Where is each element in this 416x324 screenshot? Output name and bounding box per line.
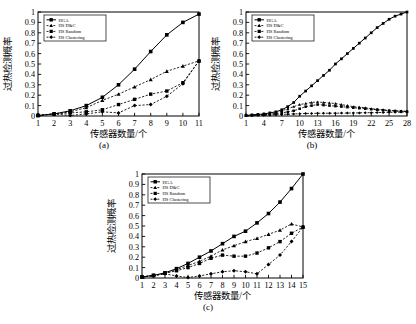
y-tick-label: 0.9 (129, 180, 139, 189)
data-point-marker (149, 50, 153, 54)
data-point-marker (382, 22, 385, 25)
x-tick-label: 15 (299, 281, 307, 290)
y-tick-label: 0.1 (25, 102, 35, 111)
data-point-marker (370, 31, 373, 34)
data-point-marker (352, 111, 355, 114)
data-point-marker (376, 108, 379, 111)
y-axis-label: 过热检测概率 (2, 37, 13, 91)
x-tick-label: 11 (253, 281, 261, 290)
series-line (38, 61, 199, 116)
subplot-caption: (b) (208, 140, 416, 150)
data-point-marker (328, 104, 331, 107)
data-point-marker (304, 90, 307, 93)
data-point-marker (267, 232, 271, 236)
data-point-marker (197, 12, 201, 16)
y-axis-label: 过热检测概率 (210, 37, 221, 91)
data-point-marker (310, 104, 313, 107)
data-point-marker (298, 107, 301, 110)
y-tick-label: 0.4 (233, 70, 243, 79)
x-tick-label: 25 (385, 119, 393, 128)
series-hs-random (36, 59, 200, 117)
data-point-marker (328, 112, 331, 115)
data-point-marker (257, 18, 260, 21)
legend-label: HGA (59, 18, 70, 23)
x-tick-label: 28 (403, 119, 411, 128)
x-tick-label: 4 (174, 281, 178, 290)
data-point-marker (244, 229, 248, 233)
data-point-marker (181, 64, 185, 68)
data-point-marker (322, 112, 325, 115)
data-point-marker (117, 111, 121, 115)
data-point-marker (117, 83, 121, 87)
y-tick-label: 0.7 (25, 39, 35, 48)
data-point-marker (221, 248, 225, 252)
subplot-b: 00.10.20.30.40.50.60.70.80.9114710131619… (208, 0, 416, 160)
data-point-marker (209, 272, 213, 276)
data-point-marker (298, 103, 301, 106)
x-axis-label: 传感器数量/个 (298, 128, 356, 139)
data-point-marker (50, 30, 53, 33)
x-tick-label: 13 (313, 119, 321, 128)
data-point-marker (322, 104, 325, 107)
y-tick-label: 0.1 (129, 264, 139, 273)
data-point-marker (310, 112, 313, 115)
y-tick-label: 0.8 (233, 29, 243, 38)
data-point-marker (352, 106, 355, 109)
x-tick-label: 3 (68, 119, 72, 128)
y-tick-label: 0.5 (129, 222, 139, 231)
y-tick-label: 0.2 (25, 91, 35, 100)
data-point-marker (370, 108, 373, 111)
x-tick-label: 3 (163, 281, 167, 290)
data-point-marker (154, 192, 157, 195)
data-point-marker (406, 11, 409, 14)
data-point-marker (267, 246, 270, 249)
data-point-marker (394, 15, 397, 18)
y-tick-label: 0.8 (129, 191, 139, 200)
data-point-marker (400, 13, 403, 16)
data-point-marker (278, 240, 281, 243)
data-point-marker (310, 84, 313, 87)
x-tick-label: 7 (280, 119, 284, 128)
y-tick-label: 0.7 (233, 39, 243, 48)
data-point-marker (364, 111, 367, 114)
legend: HGAHS D&CHS RandomHS Clustering (44, 15, 106, 41)
data-point-marker (278, 228, 282, 232)
data-point-marker (290, 232, 293, 235)
legend-label: HGA (267, 18, 278, 23)
legend: HGAHS D&CHS RandomHS Clustering (148, 177, 210, 203)
legend-label: HS D&C (267, 23, 284, 28)
x-tick-label: 6 (197, 281, 201, 290)
x-tick-label: 2 (52, 119, 56, 128)
data-point-marker (370, 111, 373, 114)
y-tick-label: 0.7 (129, 201, 139, 210)
data-point-marker (376, 26, 379, 29)
data-point-marker (186, 266, 189, 269)
data-point-marker (376, 111, 379, 114)
data-point-marker (209, 249, 213, 253)
subplot-c: 00.10.20.30.40.50.60.70.80.9112345678910… (104, 162, 312, 322)
x-tick-label: 8 (220, 281, 224, 290)
series-hs-clustering (36, 59, 201, 118)
y-tick-label: 0.5 (25, 60, 35, 69)
legend: HGAHS D&CHS RandomHS Clustering (252, 15, 314, 41)
legend-label: HS D&C (163, 185, 180, 190)
data-point-marker (232, 254, 235, 257)
data-point-marker (165, 89, 168, 92)
y-tick-label: 0.5 (233, 60, 243, 69)
data-point-marker (290, 187, 294, 191)
y-tick-label: 0.3 (25, 81, 35, 90)
data-point-marker (255, 251, 258, 254)
legend-label: HS Clustering (163, 197, 190, 202)
data-point-marker (255, 221, 259, 225)
y-tick-label: 0.9 (233, 18, 243, 27)
y-tick-label: 0.2 (129, 253, 139, 262)
x-tick-label: 12 (264, 281, 272, 290)
x-tick-label: 9 (165, 119, 169, 128)
legend-label: HS D&C (59, 23, 76, 28)
data-point-marker (149, 92, 152, 95)
data-point-marker (198, 255, 202, 259)
y-tick-label: 0 (135, 274, 139, 283)
data-point-marker (304, 105, 307, 108)
x-tick-label: 10 (179, 119, 187, 128)
data-point-marker (153, 180, 156, 183)
